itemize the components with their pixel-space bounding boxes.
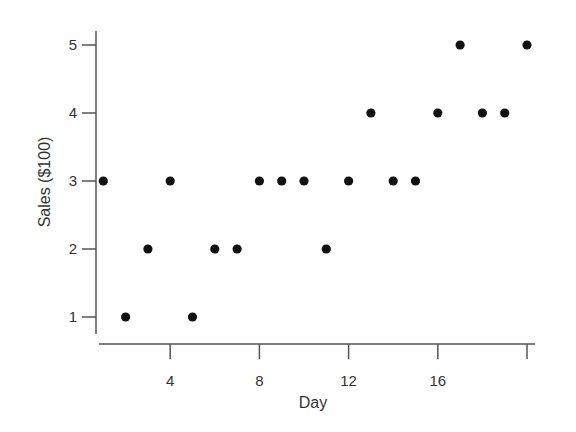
x-axis-title: Day	[299, 394, 327, 411]
data-point	[121, 312, 130, 321]
data-point	[433, 108, 442, 117]
data-point	[522, 40, 531, 49]
y-tick-label: 3	[69, 172, 77, 189]
x-tick-label: 16	[429, 372, 446, 389]
y-tick-label: 2	[69, 240, 77, 257]
scatter-chart: 12345 481216 Day Sales ($100)	[0, 0, 576, 432]
data-point	[389, 176, 398, 185]
y-tick-label: 5	[69, 36, 77, 53]
data-point	[143, 244, 152, 253]
x-tick-label: 4	[166, 372, 174, 389]
data-point	[188, 312, 197, 321]
data-point	[99, 176, 108, 185]
y-tick-label: 1	[69, 308, 77, 325]
data-points	[99, 40, 532, 321]
x-tick-label: 12	[340, 372, 357, 389]
data-point	[277, 176, 286, 185]
data-point	[166, 176, 175, 185]
x-tick-label: 8	[255, 372, 263, 389]
data-point	[322, 244, 331, 253]
data-point	[478, 108, 487, 117]
y-axis: 12345	[69, 31, 96, 334]
data-point	[210, 244, 219, 253]
y-axis-title: Sales ($100)	[36, 137, 53, 228]
data-point	[456, 40, 465, 49]
data-point	[344, 176, 353, 185]
data-point	[500, 108, 509, 117]
data-point	[411, 176, 420, 185]
x-axis: 481216	[99, 344, 535, 389]
data-point	[366, 108, 375, 117]
y-tick-label: 4	[69, 104, 77, 121]
data-point	[299, 176, 308, 185]
data-point	[233, 244, 242, 253]
data-point	[255, 176, 264, 185]
